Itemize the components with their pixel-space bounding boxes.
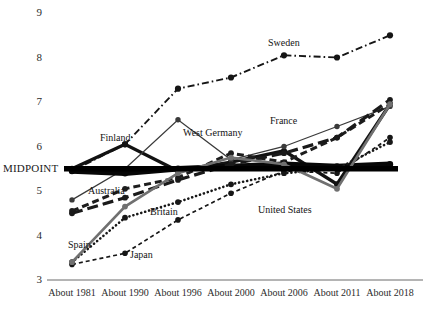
y-tick-label: 5 — [22, 185, 42, 196]
y-tick-label: 6 — [22, 141, 42, 152]
data-point — [122, 204, 128, 210]
series-label-australia: Australia — [88, 186, 125, 196]
data-point — [122, 215, 128, 221]
y-tick-label: 4 — [22, 230, 42, 241]
midpoint-axis-label: MIDPOINT — [3, 163, 58, 174]
data-point — [387, 101, 393, 107]
series-label-sweden: Sweden — [268, 38, 300, 48]
series-label-japan: Japan — [130, 250, 153, 260]
data-point — [228, 155, 234, 161]
data-point — [334, 135, 340, 141]
data-point — [281, 52, 287, 58]
data-point — [175, 177, 181, 183]
data-point — [69, 259, 75, 265]
data-point — [281, 144, 286, 149]
data-point — [334, 124, 339, 129]
data-point — [175, 199, 181, 205]
data-point — [122, 251, 128, 257]
y-tick-label: 8 — [22, 52, 42, 63]
y-tick-label: 7 — [22, 96, 42, 107]
y-tick-label: 3 — [22, 274, 42, 285]
data-point — [334, 186, 340, 192]
series-layer — [69, 32, 393, 267]
series-label-united-states: United States — [258, 205, 312, 215]
data-point — [175, 217, 181, 223]
series-label-britain: Britain — [150, 207, 178, 217]
data-point — [69, 197, 74, 202]
line-chart-figure: 9876543MIDPOINT About 1981About 1990Abou… — [0, 0, 425, 310]
data-point — [334, 54, 340, 60]
series-label-finland: Finland — [100, 133, 131, 143]
data-point — [228, 190, 234, 196]
data-point — [281, 150, 287, 156]
x-tick-label: About 2018 — [358, 288, 422, 298]
y-tick-label: 9 — [22, 7, 42, 18]
data-point — [175, 117, 180, 122]
series-label-west-germany: West Germany — [183, 128, 242, 138]
chart-plot-area — [0, 0, 425, 310]
data-point — [228, 74, 234, 80]
data-point — [387, 32, 393, 38]
data-point — [69, 210, 75, 216]
data-point — [387, 135, 393, 141]
series-label-spain: Spain — [68, 240, 91, 250]
series-label-france: France — [270, 116, 297, 126]
data-point — [228, 181, 234, 187]
data-point — [175, 86, 181, 92]
